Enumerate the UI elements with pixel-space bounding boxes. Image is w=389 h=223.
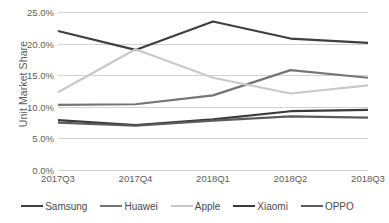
y-axis-tick-labels: 0.0%5.0%10.0%15.0%20.0%25.0% [14,12,54,170]
y-axis-tick-label: 10.0% [14,101,54,112]
x-axis-tick-label: 2017Q3 [23,173,93,184]
legend-swatch-samsung [21,205,43,208]
series-line-apple [58,49,368,93]
legend-label: Samsung [45,201,87,212]
legend-swatch-xiaomi [233,205,255,208]
y-axis-tick-label: 5.0% [14,133,54,144]
legend-label: OPPO [325,201,354,212]
legend-item-apple[interactable]: Apple [171,201,221,212]
legend-swatch-apple [171,205,193,208]
y-axis-tick-label: 25.0% [14,7,54,18]
series-line-oppo [58,116,368,125]
legend-swatch-oppo [301,205,323,208]
legend-swatch-huawei [100,205,122,208]
y-axis-tick-label: 20.0% [14,38,54,49]
series-line-huawei [58,70,368,105]
legend-label: Xiaomi [257,201,288,212]
x-axis-tick-label: 2017Q4 [101,173,171,184]
x-axis-tick-label: 2018Q1 [178,173,248,184]
chart-legend: SamsungHuaweiAppleXiaomiOPPO [0,196,375,216]
legend-item-samsung[interactable]: Samsung [21,201,87,212]
legend-item-oppo[interactable]: OPPO [301,201,354,212]
series-line-samsung [58,21,368,49]
x-axis-tick-label: 2018Q3 [333,173,389,184]
plot-area [58,12,368,170]
legend-label: Huawei [124,201,157,212]
x-axis-tick-label: 2018Q2 [256,173,326,184]
gridline [58,170,368,171]
legend-label: Apple [195,201,221,212]
legend-item-huawei[interactable]: Huawei [100,201,157,212]
legend-item-xiaomi[interactable]: Xiaomi [233,201,288,212]
series-lines [58,12,368,170]
x-axis-tick-labels: 2017Q32017Q42018Q12018Q22018Q3 [58,173,368,189]
y-axis-tick-label: 15.0% [14,70,54,81]
